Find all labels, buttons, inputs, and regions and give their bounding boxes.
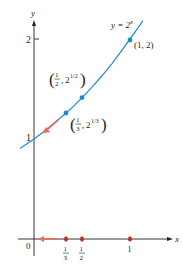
svg-text:2: 2 (86, 120, 91, 130)
svg-text:,: , (82, 120, 84, 130)
curve-limit-arrow (46, 120, 58, 131)
svg-text:1: 1 (55, 71, 59, 79)
x-tick-third-num: 1 (64, 245, 68, 253)
x-axis-label: x (174, 234, 179, 244)
svg-text:1: 1 (76, 116, 80, 124)
point-1-2-label: (1, 2) (134, 40, 154, 50)
point-half (80, 95, 85, 100)
exponential-graph: y x 0 2 1 1 3 1 2 1 y = 2x (1, 2) ( 1 2 … (0, 0, 183, 275)
x-limit-arrow-icon (38, 236, 44, 242)
svg-text:2: 2 (55, 80, 59, 88)
function-label-exponent: x (129, 18, 133, 25)
x-tick-third-den: 3 (64, 254, 68, 262)
point-third (64, 111, 69, 116)
x-axis-arrow-icon (167, 237, 173, 241)
y-axis-label: y (30, 8, 35, 18)
x-tick-1-label: 1 (128, 245, 132, 254)
svg-text:,: , (61, 75, 63, 85)
svg-text:2: 2 (65, 75, 70, 85)
svg-text:3: 3 (76, 125, 80, 133)
svg-text:): ) (101, 115, 107, 134)
function-label-base: y = 2 (110, 20, 131, 30)
svg-text:1/2: 1/2 (70, 73, 78, 79)
svg-text:): ) (80, 70, 86, 89)
function-label: y = 2x (110, 18, 133, 30)
origin-label: 0 (26, 241, 31, 251)
y-axis-arrow-icon (32, 20, 36, 26)
point-third-label: ( 1 3 , 2 1/3 ) (70, 115, 107, 134)
x-tick-half-num: 1 (80, 245, 84, 253)
x-tick-half-den: 2 (80, 254, 84, 262)
y-tick-label-2: 2 (26, 34, 31, 45)
svg-text:1/3: 1/3 (91, 118, 99, 124)
point-half-label: ( 1 2 , 2 1/2 ) (49, 70, 86, 89)
point-1-2 (128, 38, 133, 43)
